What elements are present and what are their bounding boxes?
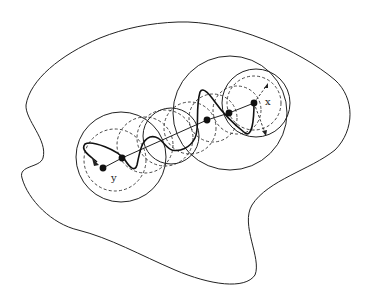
diagram-canvas [0,0,369,299]
arrow-head-icon [92,158,99,166]
chain-points [100,100,258,172]
solid-ball-chain [76,56,290,202]
wavy-curve [84,90,254,169]
diagram-stage: x y [0,0,369,299]
label-x: x [265,96,271,107]
arrow-up-icon [264,83,268,88]
point-3 [226,110,233,117]
point-y [100,165,107,172]
point-2 [204,117,211,124]
radius-arrows [254,85,267,133]
domain-boundary [22,22,350,284]
point-1 [119,155,126,162]
point-x [251,100,258,107]
label-y: y [111,172,117,183]
